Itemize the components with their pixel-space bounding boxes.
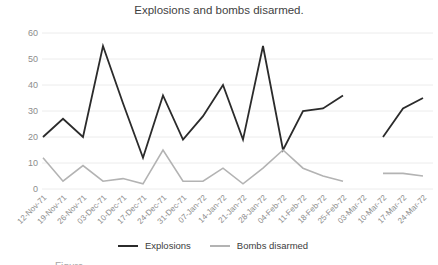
y-tick-label: 30 bbox=[28, 106, 38, 116]
y-tick-label: 20 bbox=[28, 132, 38, 142]
bombs-disarmed-line-swatch bbox=[210, 245, 230, 247]
series-line-explosions bbox=[43, 46, 423, 158]
line-chart-plot: 010203040506012-Nov-7119-Nov-7126-Nov-71… bbox=[0, 0, 438, 265]
explosions-legend-label: Explosions bbox=[145, 240, 191, 251]
y-tick-label: 0 bbox=[33, 184, 38, 194]
explosions-line-swatch bbox=[118, 245, 138, 247]
y-tick-label: 50 bbox=[28, 54, 38, 64]
y-tick-label: 10 bbox=[28, 158, 38, 168]
y-tick-label: 40 bbox=[28, 80, 38, 90]
chart-canvas: Explosions and bombs disarmed. 010203040… bbox=[0, 0, 438, 265]
series-line-bombs-disarmed bbox=[43, 150, 423, 184]
legend: Explosions Bombs disarmed bbox=[0, 240, 438, 251]
bombs-disarmed-legend-label: Bombs disarmed bbox=[237, 240, 308, 251]
y-tick-label: 60 bbox=[28, 28, 38, 38]
caption-fragment: Figure bbox=[55, 261, 435, 265]
